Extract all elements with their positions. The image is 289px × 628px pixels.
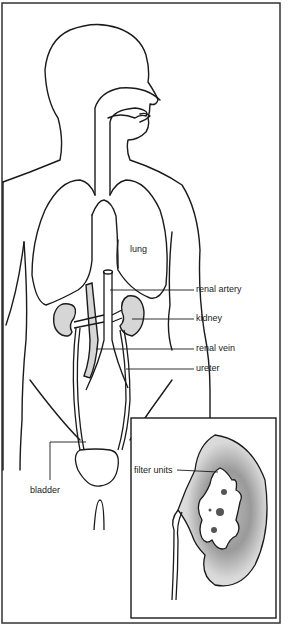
label-filter-units: filter units xyxy=(134,466,173,475)
label-renal-vein: renal vein xyxy=(196,344,235,353)
lung-right xyxy=(110,180,167,298)
urinary-system-diagram xyxy=(0,0,289,628)
body-outline xyxy=(3,24,210,420)
label-lung: lung xyxy=(130,245,147,254)
vena-cava xyxy=(84,283,98,378)
ureter-left xyxy=(73,328,84,450)
ureter-right xyxy=(118,330,130,450)
label-ureter: ureter xyxy=(196,364,220,373)
kidney-right xyxy=(120,296,144,336)
bladder xyxy=(75,449,118,486)
label-bladder: bladder xyxy=(30,486,60,495)
label-renal-artery: renal artery xyxy=(196,285,242,294)
label-kidney: kidney xyxy=(196,314,222,323)
kidney-left xyxy=(54,304,76,336)
